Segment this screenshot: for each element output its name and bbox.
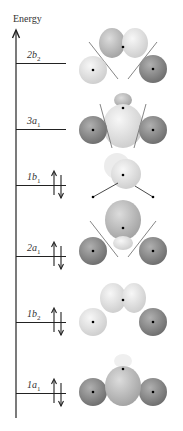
- orbital-1b2: [79, 283, 167, 336]
- orbital-1b1: [92, 153, 155, 198]
- orbital-2a1: [79, 200, 167, 265]
- orbital-2b2: [79, 28, 167, 84]
- orbital-3a1: [79, 93, 167, 148]
- orbital-1a1: [79, 354, 167, 406]
- orbital-illustrations: [0, 0, 183, 431]
